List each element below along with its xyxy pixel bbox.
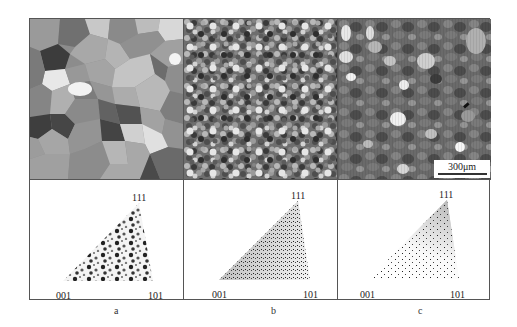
ipf-label-001: 001 — [56, 291, 71, 301]
ipf-triangle-a — [30, 180, 183, 300]
ipf-label-001: 001 — [360, 290, 375, 300]
ipf-panel-b: 111 001 101 — [184, 179, 337, 300]
scale-bar-label: 300μm — [434, 161, 490, 172]
ipf-triangle-b — [184, 180, 337, 300]
ipf-label-111: 111 — [439, 190, 453, 200]
scale-bar-line — [438, 173, 487, 175]
grain-map-mixed — [338, 19, 491, 179]
ipf-label-001: 001 — [212, 290, 227, 300]
ipf-label-111: 111 — [291, 191, 305, 201]
figure-frame: 300μm 111 001 101 — [29, 18, 490, 300]
panel-label-a: a — [114, 305, 118, 316]
micrograph-b — [184, 19, 337, 179]
ipf-label-101: 101 — [450, 290, 465, 300]
ipf-label-111: 111 — [132, 193, 146, 203]
ipf-panel-c: 111 001 101 — [338, 179, 491, 300]
panel-label-c: c — [418, 305, 422, 316]
ipf-label-101: 101 — [303, 290, 318, 300]
ipf-label-101: 101 — [148, 291, 163, 301]
ipf-triangle-c — [338, 180, 491, 300]
micrograph-a — [30, 19, 183, 179]
grain-map-fine — [184, 19, 337, 179]
scale-bar: 300μm — [434, 160, 490, 178]
ipf-panel-a: 111 001 101 — [30, 179, 183, 300]
grain-map-coarse — [30, 19, 183, 179]
micrograph-c: 300μm — [338, 19, 491, 179]
panel-label-b: b — [271, 305, 276, 316]
